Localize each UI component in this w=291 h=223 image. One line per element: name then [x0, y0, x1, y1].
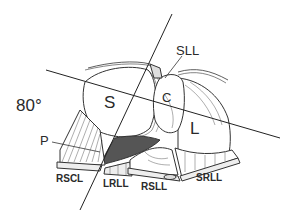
capitate-label: C: [162, 91, 171, 104]
lunate-label: L: [190, 120, 199, 137]
sll-label: SLL: [176, 44, 199, 57]
srll-label: SRLL: [196, 173, 222, 183]
scaphoid-label: S: [104, 94, 115, 111]
rsll-label: RSLL: [141, 182, 167, 192]
lrll-label: LRLL: [103, 179, 129, 189]
angle-label: 80°: [16, 97, 42, 114]
wrist-ligament-diagram: 80° S C L P SLL RSCL LRLL RSLL SRLL: [0, 0, 291, 223]
rscl-label: RSCL: [56, 174, 83, 184]
p-label: P: [40, 134, 49, 147]
